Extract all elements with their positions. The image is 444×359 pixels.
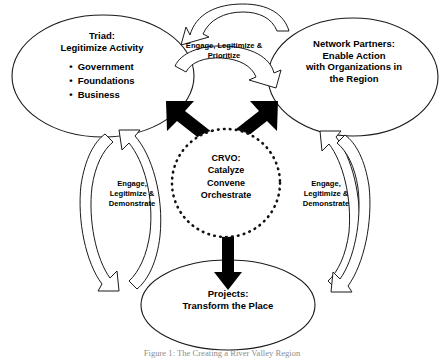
figure-caption: Figure 1: The Creating a River Valley Re… (0, 348, 444, 359)
network-partners-ellipse (268, 18, 438, 136)
diagram-vector-layer (0, 0, 444, 359)
diagram-canvas: Triad: Legitimize Activity Government Fo… (0, 0, 444, 359)
top-curved-arrow-left (181, 4, 289, 45)
crvo-dotted-circle (172, 129, 280, 237)
left-curved-arrow-down (119, 130, 161, 289)
left-curved-arrow-up (80, 134, 119, 291)
